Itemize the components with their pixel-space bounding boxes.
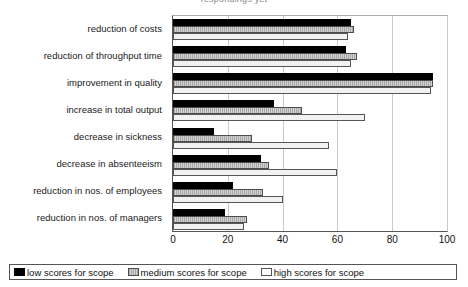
legend-label: medium scores for scope bbox=[141, 267, 247, 278]
bar-low bbox=[173, 182, 233, 189]
bar-group bbox=[173, 97, 447, 124]
bar-medium bbox=[173, 216, 247, 223]
category-label: increase in total output bbox=[0, 104, 162, 115]
x-tick-label: 80 bbox=[387, 234, 398, 245]
bar-high bbox=[173, 114, 365, 121]
category-label: reduction of costs bbox=[0, 23, 162, 34]
bar-medium bbox=[173, 135, 252, 142]
legend-item: medium scores for scope bbox=[128, 267, 247, 278]
x-tick-label: 100 bbox=[439, 234, 456, 245]
legend-item: low scores for scope bbox=[14, 267, 114, 278]
legend-swatch-low-icon bbox=[14, 268, 25, 276]
legend-label: low scores for scope bbox=[27, 267, 114, 278]
chart-legend: low scores for scopemedium scores for sc… bbox=[9, 264, 457, 280]
legend-item: high scores for scope bbox=[261, 267, 364, 278]
bar-group bbox=[173, 179, 447, 206]
category-label: decrease in sickness bbox=[0, 131, 162, 142]
chart-title-clipped: respondings yet bbox=[0, 0, 468, 6]
bar-group bbox=[173, 152, 447, 179]
bar-high bbox=[173, 196, 283, 203]
bar-medium bbox=[173, 26, 354, 33]
bar-high bbox=[173, 60, 351, 67]
category-label: decrease in absenteeism bbox=[0, 158, 162, 169]
bar-medium bbox=[173, 189, 263, 196]
legend-swatch-medium-icon bbox=[128, 268, 139, 276]
bar-chart: respondings yet reduction of costsreduct… bbox=[0, 0, 468, 287]
x-axis-tick-labels: 020406080100 bbox=[172, 234, 450, 248]
bar-group bbox=[173, 16, 447, 43]
bar-low bbox=[173, 100, 274, 107]
bar-low bbox=[173, 46, 346, 53]
bar-group bbox=[173, 125, 447, 152]
bar-high bbox=[173, 87, 431, 94]
category-label: reduction in nos. of managers bbox=[0, 212, 162, 223]
bar-high bbox=[173, 142, 329, 149]
bar-high bbox=[173, 169, 337, 176]
bar-group bbox=[173, 43, 447, 70]
bar-low bbox=[173, 73, 433, 80]
bar-medium bbox=[173, 162, 269, 169]
bar-low bbox=[173, 209, 225, 216]
category-label: improvement in quality bbox=[0, 77, 162, 88]
category-label: reduction in nos. of employees bbox=[0, 185, 162, 196]
legend-label: high scores for scope bbox=[274, 267, 364, 278]
category-label: reduction of throughput time bbox=[0, 50, 162, 61]
bar-rows bbox=[173, 16, 447, 231]
x-tick-label: 60 bbox=[332, 234, 343, 245]
x-tick-label: 20 bbox=[222, 234, 233, 245]
gridline bbox=[447, 16, 448, 231]
bar-medium bbox=[173, 107, 302, 114]
bar-medium bbox=[173, 80, 433, 87]
plot-area bbox=[172, 15, 448, 232]
x-tick-label: 0 bbox=[170, 234, 176, 245]
bar-group bbox=[173, 70, 447, 97]
bar-high bbox=[173, 33, 348, 40]
bar-low bbox=[173, 128, 214, 135]
category-axis-labels: reduction of costsreduction of throughpu… bbox=[0, 15, 168, 232]
legend-swatch-high-icon bbox=[261, 268, 272, 276]
bar-high bbox=[173, 223, 244, 230]
bar-low bbox=[173, 155, 261, 162]
x-tick-label: 40 bbox=[277, 234, 288, 245]
bar-low bbox=[173, 19, 351, 26]
bar-group bbox=[173, 206, 447, 233]
bar-medium bbox=[173, 53, 357, 60]
